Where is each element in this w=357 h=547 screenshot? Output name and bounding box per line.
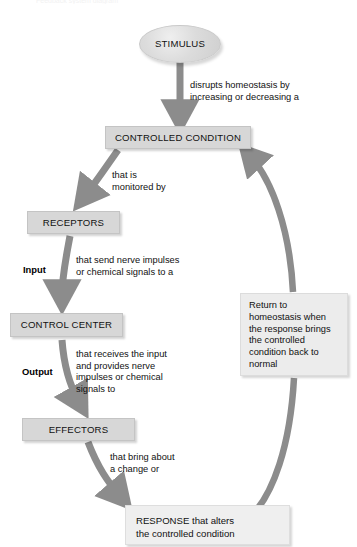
arrow-receptors-to-control-center	[62, 236, 70, 296]
node-stimulus[interactable]: STIMULUS	[139, 25, 221, 63]
arrow-return-note-to-controlled-condition	[250, 156, 293, 292]
caption-stimulus-to-controlled-condition: disrupts homeostasis by increasing or de…	[190, 80, 299, 103]
label-input: Input	[23, 264, 46, 275]
label-output: Output	[22, 366, 53, 377]
node-receptors[interactable]: RECEPTORS	[27, 211, 120, 234]
node-control-center-label: CONTROL CENTER	[21, 319, 112, 330]
node-effectors[interactable]: EFFECTORS	[22, 418, 135, 441]
top-caption-fragment: Feedback system diagram	[36, 0, 276, 4]
node-response[interactable]: RESPONSE that alters the controlled cond…	[125, 505, 290, 545]
caption-controlled-condition-to-receptors: that is monitored by	[112, 170, 166, 193]
node-stimulus-label: STIMULUS	[155, 38, 205, 49]
node-control-center[interactable]: CONTROL CENTER	[10, 313, 123, 337]
node-receptors-label: RECEPTORS	[43, 217, 104, 228]
node-controlled-condition[interactable]: CONTROLLED CONDITION	[105, 126, 251, 149]
node-return-note[interactable]: Return to homeostasis when the response …	[240, 293, 348, 376]
caption-effectors-to-response: that bring about a change or	[110, 452, 175, 475]
caption-receptors-to-control-center: that send nerve impulses or chemical sig…	[76, 255, 179, 278]
arrow-response-to-return-note	[255, 378, 294, 512]
node-effectors-label: EFFECTORS	[49, 424, 109, 435]
figure-canvas: Feedback system diagram	[0, 0, 357, 547]
caption-control-center-to-effectors: that receives the input and provides ner…	[76, 349, 167, 395]
node-controlled-condition-label: CONTROLLED CONDITION	[115, 132, 241, 143]
